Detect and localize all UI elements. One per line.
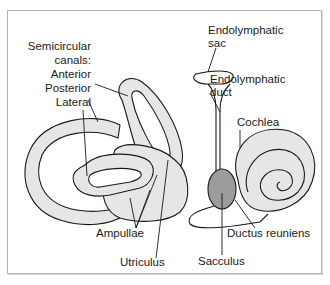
label-endolymphatic-duct-line1: Endolymphatic xyxy=(210,73,286,85)
label-semicircular-line1: Semicircular xyxy=(28,40,91,52)
label-sacculus: Sacculus xyxy=(198,255,245,267)
inner-ear-diagram: Semicircular canals: Anterior Posterior … xyxy=(0,0,330,285)
label-ampullae: Ampullae xyxy=(96,227,144,239)
label-posterior: Posterior xyxy=(45,82,91,94)
label-semicircular-line2: canals: xyxy=(55,54,91,66)
label-lateral: Lateral xyxy=(56,96,91,108)
label-anterior: Anterior xyxy=(51,68,91,80)
label-ductus-reuniens: Ductus reuniens xyxy=(227,227,310,239)
label-endolymphatic-sac-line1: Endolymphatic xyxy=(208,24,284,36)
label-endolymphatic-duct-line2: duct xyxy=(210,86,233,98)
label-utriculus: Utriculus xyxy=(120,256,165,268)
label-endolymphatic-sac-line2: sac xyxy=(208,37,226,49)
cochlea xyxy=(236,129,315,211)
label-cochlea: Cochlea xyxy=(237,116,280,128)
